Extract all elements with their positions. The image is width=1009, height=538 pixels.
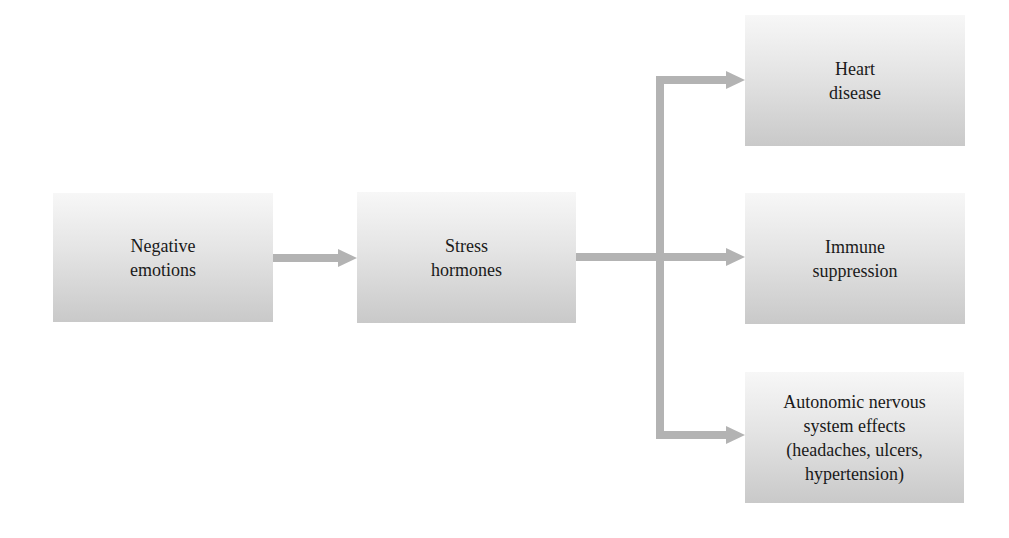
node-heart-disease: Heart disease [745, 15, 965, 146]
arrow-stress-to-heart [656, 71, 745, 89]
arrow-negative-to-stress [273, 249, 357, 267]
node-label: Negative emotions [130, 234, 196, 282]
node-negative-emotions: Negative emotions [53, 193, 273, 322]
arrow-stress-to-immune [576, 248, 745, 266]
node-label: Autonomic nervous system effects (headac… [783, 390, 925, 486]
branch-trunk [656, 76, 664, 439]
arrow-stress-to-autonomic [656, 426, 745, 444]
node-stress-hormones: Stress hormones [357, 192, 576, 323]
node-label: Heart disease [829, 57, 881, 105]
node-autonomic-effects: Autonomic nervous system effects (headac… [745, 372, 964, 503]
node-label: Stress hormones [431, 234, 502, 282]
node-label: Immune suppression [813, 235, 898, 283]
node-immune-suppression: Immune suppression [745, 193, 965, 324]
